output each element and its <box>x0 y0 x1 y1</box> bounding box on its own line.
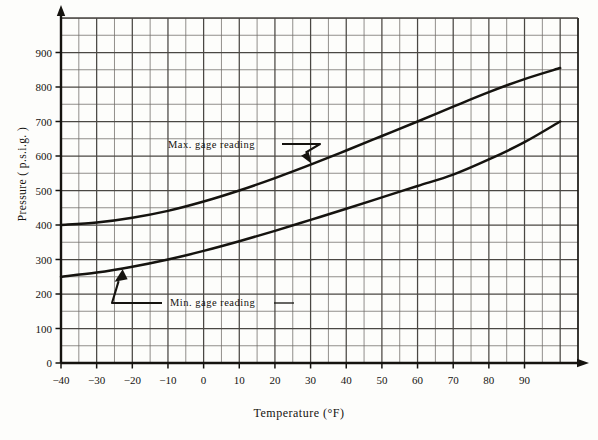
x-tick-label: −20 <box>124 374 142 386</box>
y-tick-label: 700 <box>36 116 53 128</box>
x-tick-label: 70 <box>448 374 460 386</box>
y-tick-label: 500 <box>36 185 53 197</box>
x-tick-label: 80 <box>483 374 495 386</box>
y-tick-label: 300 <box>36 254 53 266</box>
curve-annotations: Max. gage readingMin. gage reading <box>112 139 320 308</box>
x-tick-label: 0 <box>201 374 207 386</box>
x-tick-label: 60 <box>412 374 424 386</box>
x-axis-tick-labels: −40−30−20−100102030405060708090 <box>52 374 530 386</box>
x-tick-label: 10 <box>234 374 246 386</box>
x-tick-label: −10 <box>159 374 177 386</box>
axis-ticks <box>56 53 525 369</box>
y-tick-label: 900 <box>36 47 53 59</box>
y-tick-label: 400 <box>36 219 53 231</box>
y-axis-tick-labels: 0100200300400500600700800900 <box>36 47 53 370</box>
y-tick-label: 100 <box>36 323 53 335</box>
axis-lines <box>57 5 589 367</box>
y-tick-label: 0 <box>47 357 53 369</box>
annotation-max-gage-reading: Max. gage reading <box>168 139 255 150</box>
y-tick-label: 800 <box>36 81 53 93</box>
x-tick-label: −30 <box>88 374 106 386</box>
x-tick-label: 30 <box>305 374 317 386</box>
x-tick-label: 40 <box>341 374 353 386</box>
x-tick-label: 50 <box>376 374 388 386</box>
x-tick-label: 90 <box>519 374 531 386</box>
x-tick-label: −40 <box>52 374 70 386</box>
y-tick-label: 200 <box>36 288 53 300</box>
x-tick-label: 20 <box>269 374 281 386</box>
y-tick-label: 600 <box>36 150 53 162</box>
pressure-temperature-chart: 0100200300400500600700800900 −40−30−20−1… <box>0 0 598 440</box>
annotation-min-gage-reading: Min. gage reading <box>170 297 255 308</box>
